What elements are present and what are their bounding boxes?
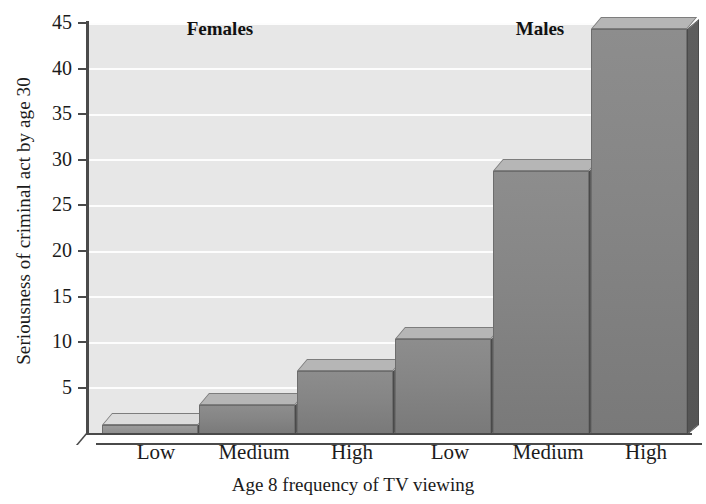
x-axis-line <box>86 433 692 435</box>
y-tick-label: 35 <box>26 103 72 123</box>
bar-females-medium <box>199 405 295 435</box>
bar-face-top <box>395 327 501 339</box>
y-tick-label: 15 <box>26 286 72 306</box>
y-tick-label: 5 <box>26 377 72 397</box>
x-tick-label-high-females: High <box>302 440 402 465</box>
bar-face-front <box>493 171 589 435</box>
y-tick-label: 20 <box>26 240 72 260</box>
y-tick-mark <box>78 113 89 115</box>
x-tick-label-low-females: Low <box>106 440 206 465</box>
x-tick-label-medium-females: Medium <box>204 440 304 465</box>
x-axis-title: Age 8 frequency of TV viewing <box>0 474 706 496</box>
y-tick-label: 40 <box>26 58 72 78</box>
y-tick-mark <box>78 387 89 389</box>
bar-females-high <box>297 371 393 435</box>
bar-face-top <box>591 17 697 29</box>
bar-face-top <box>199 393 305 405</box>
y-tick-label: 10 <box>26 331 72 351</box>
y-tick-mark <box>78 341 89 343</box>
bar-males-medium <box>493 171 589 435</box>
bar-face-side <box>687 19 699 435</box>
x-tick-label-medium-males: Medium <box>498 440 598 465</box>
bar-face-top <box>493 159 599 171</box>
bar-face-top <box>102 413 208 425</box>
bar-face-top <box>297 359 403 371</box>
bar-face-front <box>199 405 295 435</box>
x-tick-label-high-males: High <box>596 440 696 465</box>
bar-face-front <box>395 339 491 435</box>
y-tick-mark <box>78 250 89 252</box>
bar-chart: Seriousness of criminal act by age 30 Fe… <box>0 0 706 504</box>
x-tick-label-low-males: Low <box>400 440 500 465</box>
y-tick-mark <box>78 22 89 24</box>
y-tick-label: 45 <box>26 12 72 32</box>
bar-face-front <box>591 29 687 435</box>
group-label-females: Females <box>120 18 320 40</box>
bar-males-high <box>591 29 687 435</box>
y-tick-mark <box>78 159 89 161</box>
bar-face-front <box>297 371 393 435</box>
y-tick-mark <box>78 296 89 298</box>
y-tick-mark <box>78 204 89 206</box>
y-tick-mark <box>78 68 89 70</box>
y-tick-label: 25 <box>26 194 72 214</box>
bar-males-low <box>395 339 491 435</box>
y-tick-label: 30 <box>26 149 72 169</box>
y-axis-line <box>86 21 89 435</box>
